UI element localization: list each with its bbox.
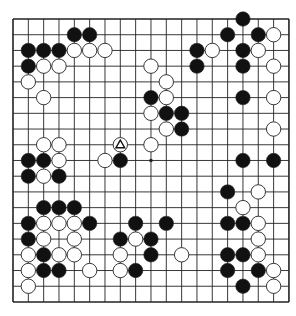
black-stone[interactable] bbox=[144, 90, 158, 104]
black-stone[interactable] bbox=[52, 169, 66, 183]
black-stone[interactable] bbox=[21, 169, 35, 183]
white-stone[interactable] bbox=[98, 153, 112, 167]
black-stone[interactable] bbox=[236, 43, 250, 57]
white-stone[interactable] bbox=[52, 138, 66, 152]
black-stone[interactable] bbox=[159, 216, 173, 230]
white-stone[interactable] bbox=[266, 90, 280, 104]
black-stone[interactable] bbox=[144, 248, 158, 262]
black-stone[interactable] bbox=[220, 263, 234, 277]
white-stone[interactable] bbox=[144, 138, 158, 152]
white-stone[interactable] bbox=[36, 216, 50, 230]
white-stone[interactable] bbox=[67, 248, 81, 262]
white-stone[interactable] bbox=[159, 75, 173, 89]
white-stone[interactable] bbox=[36, 232, 50, 246]
star-points bbox=[149, 159, 153, 163]
black-stone[interactable] bbox=[36, 153, 50, 167]
white-stone[interactable] bbox=[266, 28, 280, 42]
white-stone[interactable] bbox=[159, 122, 173, 136]
black-stone[interactable] bbox=[174, 106, 188, 120]
black-stone[interactable] bbox=[220, 28, 234, 42]
white-stone[interactable] bbox=[128, 232, 142, 246]
black-stone[interactable] bbox=[82, 216, 96, 230]
white-stone[interactable] bbox=[52, 248, 66, 262]
black-stone[interactable] bbox=[21, 216, 35, 230]
white-stone[interactable] bbox=[205, 43, 219, 57]
white-stone[interactable] bbox=[144, 106, 158, 120]
white-stone[interactable] bbox=[266, 263, 280, 277]
white-stone[interactable] bbox=[266, 122, 280, 136]
black-stone[interactable] bbox=[67, 200, 81, 214]
black-stone[interactable] bbox=[159, 106, 173, 120]
go-board[interactable] bbox=[0, 0, 296, 316]
black-stone[interactable] bbox=[21, 232, 35, 246]
black-stone[interactable] bbox=[251, 28, 265, 42]
black-stone[interactable] bbox=[190, 43, 204, 57]
white-stone[interactable] bbox=[36, 138, 50, 152]
white-stone[interactable] bbox=[251, 185, 265, 199]
black-stone[interactable] bbox=[174, 122, 188, 136]
black-stone[interactable] bbox=[236, 59, 250, 73]
white-stone[interactable] bbox=[174, 248, 188, 262]
white-stone[interactable] bbox=[36, 169, 50, 183]
white-stone[interactable] bbox=[82, 263, 96, 277]
black-stone[interactable] bbox=[251, 263, 265, 277]
black-stone[interactable] bbox=[36, 248, 50, 262]
black-stone[interactable] bbox=[220, 185, 234, 199]
black-stone[interactable] bbox=[21, 59, 35, 73]
black-stone[interactable] bbox=[52, 43, 66, 57]
black-stone[interactable] bbox=[36, 43, 50, 57]
black-stone[interactable] bbox=[236, 216, 250, 230]
white-stone[interactable] bbox=[251, 43, 265, 57]
white-stone[interactable] bbox=[52, 59, 66, 73]
black-stone[interactable] bbox=[82, 28, 96, 42]
black-stone[interactable] bbox=[190, 59, 204, 73]
white-stone[interactable] bbox=[21, 75, 35, 89]
black-stone[interactable] bbox=[21, 153, 35, 167]
black-stone[interactable] bbox=[144, 232, 158, 246]
white-stone[interactable] bbox=[82, 43, 96, 57]
black-stone[interactable] bbox=[236, 279, 250, 293]
white-stone[interactable] bbox=[266, 59, 280, 73]
black-stone[interactable] bbox=[236, 248, 250, 262]
black-stone[interactable] bbox=[113, 153, 127, 167]
white-stone[interactable] bbox=[159, 90, 173, 104]
black-stone[interactable] bbox=[113, 232, 127, 246]
black-stone[interactable] bbox=[36, 200, 50, 214]
white-stone[interactable] bbox=[21, 279, 35, 293]
white-stone[interactable] bbox=[251, 248, 265, 262]
white-stone[interactable] bbox=[21, 263, 35, 277]
white-stone[interactable] bbox=[251, 232, 265, 246]
white-stone[interactable] bbox=[36, 59, 50, 73]
black-stone[interactable] bbox=[220, 216, 234, 230]
white-stone[interactable] bbox=[36, 90, 50, 104]
black-stone[interactable] bbox=[128, 263, 142, 277]
white-stone[interactable] bbox=[236, 200, 250, 214]
black-stone[interactable] bbox=[21, 43, 35, 57]
black-stone[interactable] bbox=[36, 263, 50, 277]
black-stone[interactable] bbox=[236, 12, 250, 26]
white-stone[interactable] bbox=[67, 232, 81, 246]
black-stone[interactable] bbox=[220, 248, 234, 262]
white-stone[interactable] bbox=[67, 43, 81, 57]
star-point-icon bbox=[149, 159, 153, 163]
black-stone[interactable] bbox=[52, 263, 66, 277]
white-stone[interactable] bbox=[21, 248, 35, 262]
white-stone[interactable] bbox=[113, 263, 127, 277]
white-stone[interactable] bbox=[144, 59, 158, 73]
white-stone[interactable] bbox=[113, 248, 127, 262]
white-stone[interactable] bbox=[251, 216, 265, 230]
black-stone[interactable] bbox=[266, 153, 280, 167]
black-stone[interactable] bbox=[52, 200, 66, 214]
white-stone[interactable] bbox=[52, 216, 66, 230]
black-stone[interactable] bbox=[236, 153, 250, 167]
white-stone[interactable] bbox=[98, 43, 112, 57]
black-stone[interactable] bbox=[236, 90, 250, 104]
black-stone[interactable] bbox=[67, 28, 81, 42]
black-stone[interactable] bbox=[128, 216, 142, 230]
white-stone[interactable] bbox=[52, 153, 66, 167]
white-stone[interactable] bbox=[266, 279, 280, 293]
white-stone[interactable] bbox=[67, 216, 81, 230]
